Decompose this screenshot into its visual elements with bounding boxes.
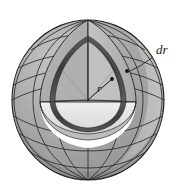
shell-sample-dot xyxy=(125,69,129,73)
radius-label: r xyxy=(97,82,102,94)
radius-endpoint-dot xyxy=(110,77,114,81)
sphere-shell-figure: dr r xyxy=(0,0,180,190)
dr-label: dr xyxy=(156,42,169,57)
sphere-diagram-canvas: dr r xyxy=(0,0,180,190)
